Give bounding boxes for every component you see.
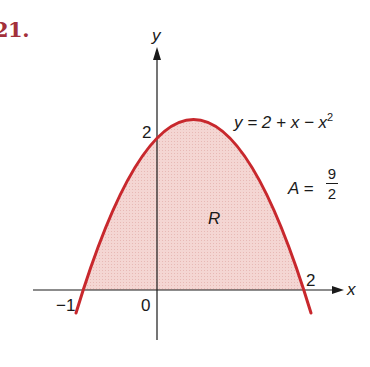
fraction-bar <box>326 183 338 184</box>
origin-label: 0 <box>141 297 150 314</box>
area-label: A = <box>288 180 313 197</box>
x-tick-label-2: 2 <box>306 272 315 289</box>
x-axis-label: x <box>347 281 356 298</box>
area-denominator: 2 <box>328 186 336 201</box>
area-numerator: 9 <box>328 166 336 181</box>
curve-equation-base: y = 2 + x − x <box>234 113 327 132</box>
y-axis-arrow-icon <box>153 47 161 60</box>
curve-equation-exponent: 2 <box>327 111 333 123</box>
y-axis-label: y <box>152 27 161 44</box>
region-label: R <box>208 210 220 227</box>
x-axis-arrow-icon <box>332 286 344 294</box>
curve-equation: y = 2 + x − x2 <box>234 112 333 131</box>
figure: 21. y x 0 −1 2 2 y = 2 + x − x2 A = 9 2 … <box>0 0 370 367</box>
area-fraction: 9 2 <box>326 166 338 201</box>
x-tick-label-neg1: −1 <box>56 297 75 314</box>
y-tick-label-2: 2 <box>142 124 151 141</box>
